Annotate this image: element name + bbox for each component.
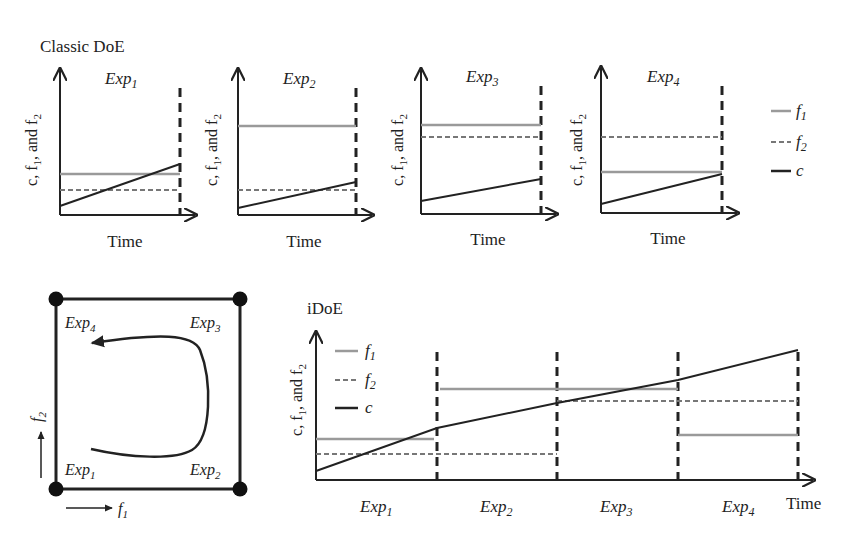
y-axis-label: c, f1, and f2 [288, 364, 308, 436]
classic-panel-exp1: c, f1, and f2 Exp1 Time [23, 69, 195, 251]
classic-doe-title: Classic DoE [40, 37, 125, 56]
legend-c: c [796, 161, 804, 180]
legend-f2: f2 [796, 132, 807, 154]
idoe-legend-f1: f1 [365, 341, 376, 363]
x-axis-label: Time [286, 232, 321, 251]
classic-panel-exp4: c, f1, and f2 Exp4 Time [568, 67, 737, 248]
corner-dot [233, 482, 248, 497]
y-axis-label: c, f1, and f2 [389, 114, 409, 186]
segment-label-exp1: Exp1 [359, 497, 392, 519]
corner-dot [49, 292, 64, 307]
segment-label-exp2: Exp2 [479, 497, 512, 519]
trajectory-arrow [91, 337, 208, 457]
panel-title-exp1: Exp1 [104, 69, 137, 91]
classic-panel-exp2: c, f1, and f2 Exp2 Time [203, 69, 372, 251]
y-axis-label: c, f1, and f2 [203, 114, 223, 186]
corner-label-exp3: Exp3 [189, 314, 221, 334]
panel-title-exp4: Exp4 [646, 67, 679, 89]
corner-dot [49, 482, 64, 497]
panel-title-exp3: Exp3 [465, 67, 498, 89]
figure: Classic DoE c, f1, and f2 Exp1 Time c, f… [0, 0, 856, 548]
panel-title-exp2: Exp2 [282, 69, 315, 91]
x-axis-label: Time [650, 229, 685, 248]
corner-label-exp4: Exp4 [64, 314, 96, 334]
f1-axis-label: f1 [118, 500, 128, 520]
corner-label-exp2: Exp2 [189, 461, 221, 481]
idoe-legend-c: c [365, 398, 373, 417]
segment-label-exp4: Exp4 [721, 497, 754, 519]
x-axis-label: Time [107, 232, 142, 251]
y-axis-label: c, f1, and f2 [23, 114, 43, 186]
classic-legend: f1 f2 c [771, 101, 807, 180]
x-axis-label: Time [786, 494, 821, 513]
idoe-title: iDoE [307, 299, 343, 318]
design-space-square: Exp4 Exp3 Exp1 Exp2 f2 f1 [28, 292, 248, 521]
x-axis-label: Time [470, 230, 505, 249]
f2-axis-label: f2 [28, 412, 48, 422]
y-axis-label: c, f1, and f2 [568, 114, 588, 186]
corner-dot [233, 292, 248, 307]
idoe-legend-f2: f2 [365, 370, 376, 392]
idoe-chart: iDoE c, f1, and f2 f1 f2 c Exp1 Exp2 Exp… [288, 299, 821, 519]
segment-label-exp3: Exp3 [599, 497, 632, 519]
classic-panel-exp3: c, f1, and f2 Exp3 Time [389, 67, 556, 249]
corner-label-exp1: Exp1 [64, 461, 95, 481]
legend-f1: f1 [796, 101, 807, 123]
